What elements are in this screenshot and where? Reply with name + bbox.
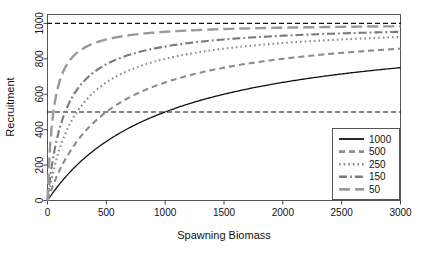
legend-label-500: 500: [369, 146, 386, 157]
y-tick-label-1000: 1000: [34, 12, 45, 35]
y-tick-label-0: 0: [34, 197, 45, 203]
legend-label-50: 50: [369, 184, 381, 195]
stock-recruitment-plot: 02004006008001000 0500100015002000250030…: [0, 0, 424, 255]
y-tick-label-600: 600: [34, 85, 45, 102]
x-tick-label-1500: 1500: [213, 207, 236, 218]
chart-figure: 02004006008001000 0500100015002000250030…: [0, 0, 424, 255]
x-tick-label-0: 0: [45, 207, 51, 218]
legend-label-150: 150: [369, 171, 386, 182]
y-tick-label-800: 800: [34, 50, 45, 67]
y-tick-label-200: 200: [34, 156, 45, 173]
x-axis-title: Spawning Biomass: [177, 229, 271, 241]
y-axis-title: Recruitment: [4, 77, 16, 136]
legend-label-1000: 1000: [369, 134, 392, 145]
y-tick-label-400: 400: [34, 121, 45, 138]
x-tick-label-2000: 2000: [272, 207, 295, 218]
legend[interactable]: 100050025015050: [333, 129, 400, 200]
x-tick-label-3000: 3000: [389, 207, 412, 218]
legend-label-250: 250: [369, 159, 386, 170]
x-tick-label-500: 500: [98, 207, 115, 218]
x-tick-label-2500: 2500: [331, 207, 354, 218]
x-tick-label-1000: 1000: [154, 207, 177, 218]
